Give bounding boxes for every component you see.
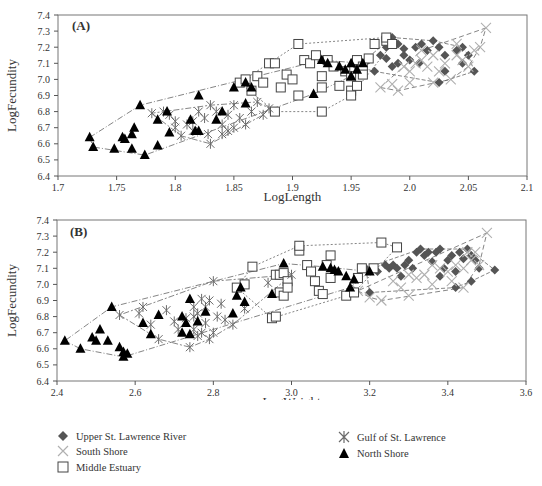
y-tick-label: 6.5 [37, 359, 50, 370]
panel-label: (B) [70, 224, 87, 239]
x-tick-label: 1.85 [225, 182, 243, 193]
x-tick-label: 1.75 [108, 182, 126, 193]
y-tick-label: 6.8 [38, 106, 51, 117]
x-tick-label: 2.4 [51, 387, 64, 398]
y-axis-title: LogFecundity [4, 59, 19, 132]
square-icon [56, 461, 70, 473]
figure: 6.46.56.66.76.86.97.07.17.27.37.41.71.75… [0, 0, 542, 486]
y-axis-title: LogFecundity [4, 264, 19, 337]
x-tick-label: 2.6 [129, 387, 142, 398]
y-tick-label: 7.2 [38, 42, 51, 53]
x-tick-label: 1.8 [169, 182, 182, 193]
y-tick-label: 6.4 [38, 171, 51, 182]
x-tick-label: 2.8 [207, 387, 220, 398]
y-tick-label: 7.3 [37, 231, 50, 242]
legend-label: Gulf of St. Lawrence [357, 432, 446, 443]
legend-item-upper-st-lawrence: Upper St. Lawrence River [56, 430, 186, 442]
diamond-icon [56, 430, 70, 442]
series-hull [240, 38, 393, 112]
y-tick-label: 6.5 [38, 154, 51, 165]
y-tick-label: 7.3 [38, 26, 51, 37]
x-tick-label: 2.05 [460, 182, 478, 193]
x-icon [56, 445, 70, 457]
y-tick-label: 7.1 [37, 263, 50, 274]
x-tick-label: 3.6 [520, 387, 533, 398]
y-tick-label: 6.8 [37, 311, 50, 322]
series-gulf-of-st-lawrence [148, 97, 273, 149]
y-tick-label: 7.1 [38, 58, 51, 69]
legend-item-gulf-st-lawrence: Gulf of St. Lawrence [337, 431, 446, 443]
legend-label: South Shore [76, 446, 128, 457]
legend-label: North Shore [357, 448, 409, 459]
panel-b: 6.46.56.66.76.86.97.07.17.27.37.42.42.62… [4, 215, 532, 401]
legend: Upper St. Lawrence River South Shore Mid… [0, 400, 542, 486]
x-tick-label: 3.4 [442, 387, 455, 398]
x-tick-label: 2.1 [521, 182, 534, 193]
x-tick-label: 3.2 [363, 387, 376, 398]
y-tick-label: 6.6 [38, 138, 51, 149]
y-tick-label: 6.9 [38, 90, 51, 101]
triangle-icon [337, 447, 351, 459]
panel-label: (A) [72, 18, 90, 33]
y-tick-label: 6.7 [37, 327, 50, 338]
x-tick-label: 1.7 [52, 182, 65, 193]
legend-item-middle-estuary: Middle Estuary [56, 461, 141, 473]
y-tick-label: 7.0 [37, 279, 50, 290]
legend-item-south-shore: South Shore [56, 445, 128, 457]
y-tick-label: 7.4 [37, 215, 50, 226]
y-tick-label: 7.2 [37, 247, 50, 258]
scatter-panels: 6.46.56.66.76.86.97.07.17.27.37.41.71.75… [0, 0, 542, 400]
asterisk-icon [337, 431, 351, 443]
panel-a: 6.46.56.66.76.86.97.07.17.27.37.41.71.75… [4, 10, 533, 205]
y-tick-label: 7.4 [38, 10, 51, 21]
legend-item-north-shore: North Shore [337, 447, 409, 459]
series-middle-estuary [232, 238, 401, 323]
y-tick-label: 6.6 [37, 343, 50, 354]
x-tick-label: 1.95 [342, 182, 360, 193]
y-tick-label: 7.0 [38, 74, 51, 85]
legend-label: Middle Estuary [76, 462, 141, 473]
y-tick-label: 6.4 [37, 376, 50, 387]
y-tick-label: 6.7 [38, 122, 51, 133]
x-tick-label: 2.0 [404, 182, 417, 193]
y-tick-label: 6.9 [37, 295, 50, 306]
x-axis-title: LogLength [264, 189, 322, 204]
legend-label: Upper St. Lawrence River [76, 431, 186, 442]
